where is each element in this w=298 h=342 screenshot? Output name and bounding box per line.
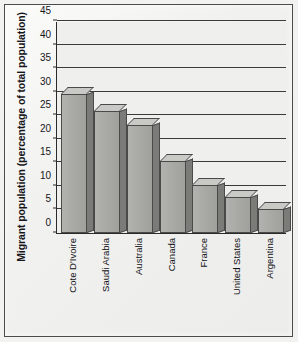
y-tick-label: 0 <box>17 217 57 228</box>
bar-series <box>57 22 286 233</box>
x-tick-label: Argentina <box>265 238 275 279</box>
bar <box>61 94 87 233</box>
bar <box>258 209 284 233</box>
y-tick-label: 25 <box>17 99 57 110</box>
x-tick-label: Saudi Arabia <box>101 238 111 292</box>
bar-front-face <box>94 111 120 233</box>
y-tick-mark <box>53 20 57 21</box>
bar <box>160 161 186 233</box>
bar <box>225 197 251 233</box>
plot-area: 051015202530354045 <box>56 22 286 234</box>
y-tick-label: 10 <box>17 169 57 180</box>
bar-front-face <box>160 161 186 233</box>
y-tick-label: 45 <box>17 5 57 16</box>
y-tick-label: 15 <box>17 146 57 157</box>
plot-outer: 051015202530354045 <box>56 22 286 234</box>
x-tick-label: France <box>199 238 209 268</box>
x-tick-label: United States <box>232 238 242 295</box>
bar <box>94 111 120 233</box>
x-tick-label: Cote D'Ivoire <box>68 238 78 293</box>
chart-figure: Migrant population (percentage of total … <box>0 0 298 342</box>
y-tick-label: 20 <box>17 122 57 133</box>
bar-front-face <box>192 185 218 233</box>
y-tick-label: 40 <box>17 28 57 39</box>
bar-front-face <box>127 125 153 233</box>
bar <box>192 185 218 233</box>
bar-front-face <box>225 197 251 233</box>
y-tick-label: 5 <box>17 193 57 204</box>
bar-side-face <box>284 207 291 233</box>
bar-front-face <box>258 209 284 233</box>
y-tick-label: 30 <box>17 75 57 86</box>
x-tick-label: Australia <box>134 238 144 275</box>
y-tick-label: 35 <box>17 52 57 63</box>
bar-front-face <box>61 94 87 233</box>
gridline <box>57 20 286 21</box>
x-tick-label: Canada <box>167 238 177 271</box>
x-axis-labels: Cote D'IvoireSaudi ArabiaAustraliaCanada… <box>56 238 286 324</box>
bar <box>127 125 153 233</box>
